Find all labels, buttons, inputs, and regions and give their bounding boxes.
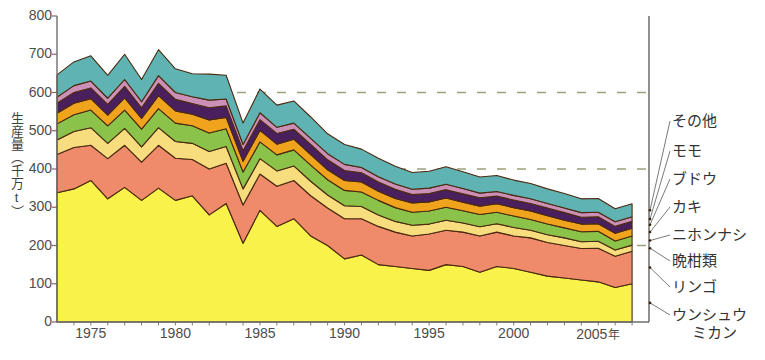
- y-axis-tick-labels: 0100200300400500600700800: [14, 16, 52, 322]
- y-tick-label: 800: [18, 7, 52, 23]
- legend-leader-line: [650, 235, 670, 241]
- legend-leader-lines: [648, 100, 765, 340]
- x-tick-label: 1990: [329, 325, 360, 341]
- legend-label: カキ: [672, 198, 702, 215]
- legend-label: ウンシュウ: [672, 306, 747, 323]
- series-areas: [57, 50, 632, 322]
- legend-leader-line: [650, 207, 670, 232]
- legend-anchor-dot: [649, 231, 652, 234]
- legend-item-8[interactable]: ウンシュウミカン: [672, 306, 747, 342]
- legend-label: 晩柑類: [672, 252, 717, 269]
- stacked-area-svg: [57, 16, 649, 322]
- legend-anchor-dot: [649, 247, 652, 250]
- legend-label-line2: ミカン: [672, 324, 747, 342]
- legend-label: ニホンナシ: [672, 226, 747, 243]
- x-axis-unit: 年: [608, 328, 620, 342]
- legend-item-2[interactable]: モモ: [672, 142, 702, 159]
- legend-anchor-dot: [649, 218, 652, 221]
- chart-figure: 生産量（千万t） 0100200300400500600700800 19751…: [0, 0, 765, 360]
- legend-item-7[interactable]: リンゴ: [672, 278, 717, 295]
- plot-area: [57, 16, 649, 322]
- legend-label: ブドウ: [672, 170, 717, 187]
- y-tick-label: 0: [18, 313, 52, 329]
- y-tick-label: 400: [18, 160, 52, 176]
- y-tick-label: 700: [18, 45, 52, 61]
- x-tick-label: 2000: [498, 325, 529, 341]
- legend-item-4[interactable]: カキ: [672, 198, 702, 215]
- legend-anchor-dot: [649, 302, 652, 305]
- y-tick-label: 100: [18, 275, 52, 291]
- legend-label: その他: [672, 112, 717, 129]
- legend-leader-line: [650, 303, 670, 315]
- y-tick-label: 500: [18, 122, 52, 138]
- legend-item-3[interactable]: ブドウ: [672, 170, 717, 187]
- y-tick-label: 600: [18, 84, 52, 100]
- legend-leader-line: [650, 267, 670, 287]
- y-tick-label: 200: [18, 237, 52, 253]
- legend-anchor-dot: [649, 209, 652, 212]
- legend-leader-line: [650, 121, 670, 210]
- x-axis-tick-labels: 1975198019851990199520002005年: [57, 325, 649, 349]
- legend: その他モモブドウカキニホンナシ晩柑類リンゴウンシュウミカン: [648, 100, 765, 340]
- x-tick-label: 1995: [414, 325, 445, 341]
- legend-anchor-dot: [649, 266, 652, 269]
- x-tick-label: 2005年: [576, 325, 620, 342]
- y-tick-label: 300: [18, 198, 52, 214]
- x-tick-label: 1975: [75, 325, 106, 341]
- legend-label: リンゴ: [672, 278, 717, 295]
- legend-anchor-dot: [649, 239, 652, 242]
- legend-anchor-dot: [649, 224, 652, 227]
- x-tick-label: 1985: [244, 325, 275, 341]
- legend-label: モモ: [672, 142, 702, 159]
- legend-leader-line: [650, 248, 670, 261]
- legend-item-5[interactable]: ニホンナシ: [672, 226, 747, 243]
- x-tick-label: 1980: [160, 325, 191, 341]
- y-axis-ticks: [52, 16, 57, 322]
- legend-item-1[interactable]: その他: [672, 112, 717, 129]
- legend-item-6[interactable]: 晩柑類: [672, 252, 717, 269]
